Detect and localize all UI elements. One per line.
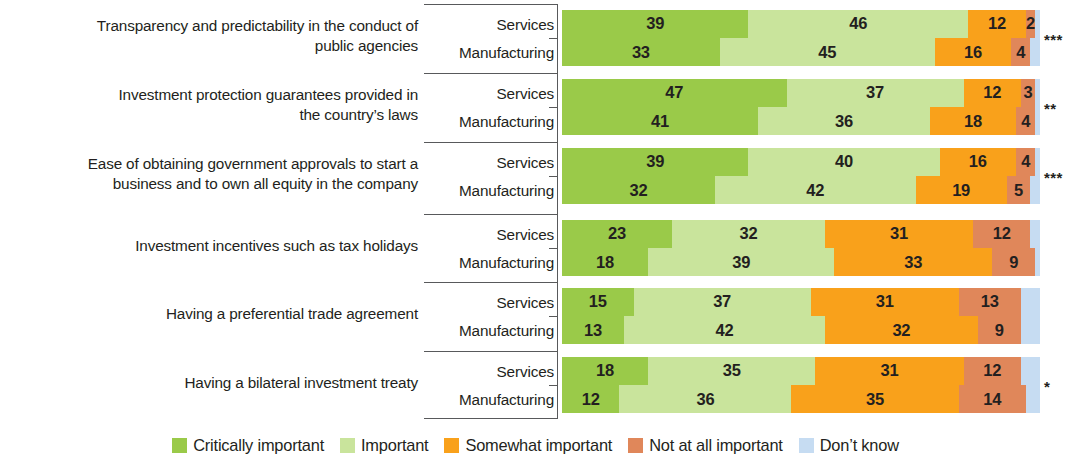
category-label-line: Investment protection guarantees provide… [0,85,418,105]
bar-segment: 12 [562,385,619,413]
axis-tick [549,107,558,108]
legend-label: Not at all important [649,437,783,453]
legend-label: Critically important [193,437,324,453]
bar-segment: 37 [634,288,811,316]
bar-row: 15373113 [562,288,1040,316]
bar-value-label: 18 [596,254,614,271]
category-label: Investment protection guarantees provide… [0,85,418,125]
bar-segment [1030,38,1040,66]
bar-value-label: 5 [1014,182,1023,199]
bar-segment: 42 [624,316,825,344]
bar-value-label: 2 [1026,15,1035,32]
bar-row: 1342329 [562,316,1040,344]
category-label: Having a preferential trade agreement [0,304,418,324]
bar-value-label: 16 [969,153,987,170]
legend-label: Important [361,437,428,453]
category-label-line: business and to own all equity in the co… [0,174,418,194]
legend-item[interactable]: Important [340,437,428,453]
series-name-column: ServicesManufacturing [424,220,558,276]
series-name-column: ServicesManufacturing [424,148,558,204]
group-separator [424,282,557,283]
bar-segment [1021,288,1040,316]
axis-tick [549,316,558,317]
bar-segment: 12 [968,10,1025,38]
legend-label: Don’t know [820,437,899,453]
bar-segment: 39 [648,248,834,276]
bar-segment: 14 [959,385,1026,413]
bar-segment: 39 [562,10,748,38]
legend-item[interactable]: Critically important [172,437,324,453]
series-name-manufacturing: Manufacturing [424,323,554,338]
category-label-line: Having a bilateral investment treaty [0,373,418,393]
bar-segment: 9 [978,316,1021,344]
bar-value-label: 4 [1016,44,1025,61]
legend-swatch [340,438,355,453]
bar-segment: 35 [791,385,958,413]
category-label-line: Investment incentives such as tax holida… [0,236,418,256]
bar-row: 18353112 [562,357,1040,385]
category-label-line: public agencies [0,36,418,56]
bar-value-label: 47 [665,84,683,101]
bar-segment: 32 [562,176,715,204]
bar-segment: 12 [973,220,1030,248]
legend-item[interactable]: Not at all important [628,437,783,453]
bar-value-label: 9 [995,322,1004,339]
series-name-services: Services [424,155,554,170]
bar-value-label: 35 [866,391,884,408]
bar-value-label: 39 [732,254,750,271]
bar-value-label: 18 [964,113,982,130]
bar-segment [1035,148,1040,176]
bar-segment: 4 [1016,107,1035,135]
bar-segment [1030,220,1040,248]
category-label: Transparency and predictability in the c… [0,16,418,56]
bar-value-label: 23 [608,225,626,242]
legend-swatch [444,438,459,453]
bar-segment [1026,385,1040,413]
category-label-line: the country’s laws [0,105,418,125]
bar-segment: 41 [562,107,758,135]
bar-value-label: 45 [818,44,836,61]
legend-swatch [799,438,814,453]
significance-marker: ** [1044,101,1056,116]
bar-value-label: 12 [582,391,600,408]
category-label-line: Ease of obtaining government approvals t… [0,154,418,174]
bar-segment: 19 [916,176,1007,204]
category-label: Ease of obtaining government approvals t… [0,154,418,194]
bar-segment [1021,357,1040,385]
bar-segment: 31 [825,220,973,248]
series-name-column: ServicesManufacturing [424,288,558,344]
bar-segment: 16 [935,38,1011,66]
legend-item[interactable]: Don’t know [799,437,899,453]
series-name-manufacturing: Manufacturing [424,114,554,129]
bar-value-label: 4 [1021,113,1030,130]
plot-area: Transparency and predictability in the c… [0,0,1071,428]
bar-row: 4737123 [562,79,1040,107]
group-separator [424,214,557,215]
bar-row: 3946122 [562,10,1040,38]
bar-value-label: 12 [988,15,1006,32]
series-name-services: Services [424,227,554,242]
legend-item[interactable]: Somewhat important [444,437,612,453]
bar-segment: 15 [562,288,634,316]
bar-value-label: 35 [723,362,741,379]
bar-segment: 18 [562,357,648,385]
bar-segment: 12 [964,357,1021,385]
bar-row: 12363514 [562,385,1040,413]
bar-value-label: 12 [983,84,1001,101]
group-separator [424,142,557,143]
bar-value-label: 12 [983,362,1001,379]
bar-segment: 13 [959,288,1021,316]
bar-row: 4136184 [562,107,1040,135]
bar-segment: 36 [619,385,791,413]
series-name-services: Services [424,295,554,310]
series-name-services: Services [424,364,554,379]
bar-value-label: 4 [1021,153,1030,170]
bar-value-label: 31 [880,362,898,379]
bar-row: 3345164 [562,38,1040,66]
bar-value-label: 40 [835,153,853,170]
bar-value-label: 41 [651,113,669,130]
bar-value-label: 39 [646,153,664,170]
bar-segment [1030,176,1040,204]
series-name-column: ServicesManufacturing [424,10,558,66]
bar-value-label: 13 [584,322,602,339]
